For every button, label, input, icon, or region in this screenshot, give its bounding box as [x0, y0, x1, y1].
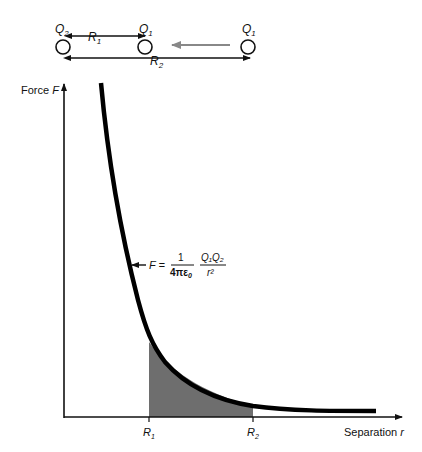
tick-label-r1: R1 [143, 426, 155, 440]
force-curve [101, 83, 376, 411]
equation-frac2-num: Q₁Q₂ [201, 252, 224, 263]
coulomb-force-diagram: Q2 Q1 Q1 R1 R2 Force F Separation r R1 R… [0, 0, 422, 452]
shaded-area [149, 342, 253, 417]
force-graph: Force F Separation r R1 R2 F = 1 4πε0 Q₁… [21, 83, 405, 440]
charge-q2-circle [56, 40, 70, 54]
equation-frac1-den: 4πε0 [170, 267, 192, 279]
charge-q1-far-circle [241, 40, 255, 54]
coulomb-equation: F = 1 4πε0 Q₁Q₂ r² [132, 252, 226, 279]
label-q2: Q2 [55, 22, 69, 38]
x-axis-label: Separation r [344, 426, 405, 438]
top-charge-diagram: Q2 Q1 Q1 R1 R2 [55, 22, 256, 70]
label-q1: Q1 [139, 22, 153, 38]
charge-q1-circle [138, 40, 152, 54]
label-q1-far: Q1 [242, 22, 256, 38]
y-axis-label: Force F [21, 84, 60, 96]
equation-lhs: F = [149, 259, 166, 271]
tick-label-r2: R2 [247, 426, 259, 440]
label-r1: R1 [88, 30, 101, 46]
equation-frac1-num: 1 [178, 252, 184, 263]
equation-frac2-den: r² [207, 267, 214, 278]
label-r2: R2 [150, 54, 164, 70]
